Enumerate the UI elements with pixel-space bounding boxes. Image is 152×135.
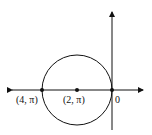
label-2-pi: (2, π)	[63, 94, 85, 105]
polar-diagram	[0, 0, 152, 135]
point-4-pi	[40, 88, 44, 92]
label-4-pi: (4, π)	[16, 94, 38, 105]
point-pole	[110, 88, 114, 92]
label-pole: 0	[115, 94, 120, 105]
point-2-pi-center	[75, 88, 79, 92]
